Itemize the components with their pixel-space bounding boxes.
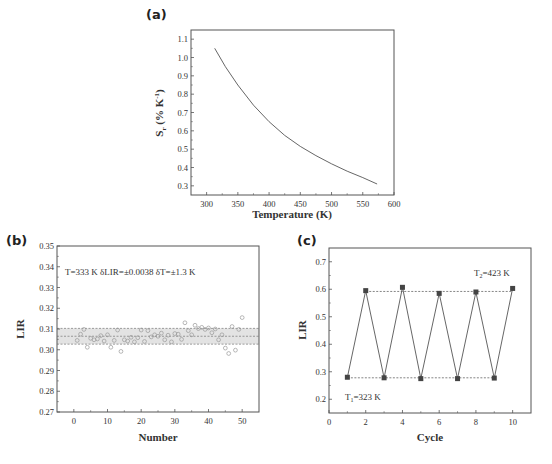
plot-c-xlabel: Cycle	[417, 431, 443, 443]
x-tick-label: 6	[437, 417, 441, 427]
data-point	[230, 325, 234, 329]
plot-a-xlabel: Temperature (K)	[252, 208, 332, 221]
panel-b-label: (b)	[6, 233, 27, 248]
panel-a: (a) 0.30.40.50.60.70.80.91.01.1 30035040…	[146, 7, 400, 221]
square-marker	[382, 375, 387, 380]
y-tick-label: 1.0	[177, 53, 188, 63]
plot-a-curve	[215, 48, 377, 184]
x-tick-label: 4	[400, 417, 405, 427]
plot-a-y-axis: 0.30.40.50.60.70.80.91.01.1	[177, 34, 194, 191]
y-tick-label: 0.32	[39, 303, 54, 313]
square-marker	[473, 290, 478, 295]
y-tick-label: 0.5	[315, 312, 326, 322]
x-tick-label: 0	[72, 416, 76, 426]
figure: (a) 0.30.40.50.60.70.80.91.01.1 30035040…	[0, 0, 552, 464]
x-tick-label: 40	[204, 416, 213, 426]
y-tick-label: 0.34	[39, 262, 55, 272]
square-marker	[400, 285, 405, 290]
data-point	[240, 316, 244, 320]
x-tick-label: 10	[103, 416, 112, 426]
y-tick-label: 0.4	[315, 339, 326, 349]
y-tick-label: 0.8	[177, 89, 188, 99]
x-tick-label: 550	[356, 199, 369, 209]
plot-c-t1-label: T1=323 K	[345, 392, 381, 403]
data-point	[223, 346, 227, 350]
panel-c: (c) 0.20.30.40.50.60.7 0246810 T2=423 K …	[296, 233, 531, 443]
square-marker	[510, 286, 515, 291]
plot-c-ylabel: LIR	[296, 319, 308, 340]
panel-a-label: (a)	[146, 7, 167, 22]
x-tick-label: 8	[474, 417, 478, 427]
square-marker	[345, 375, 350, 380]
x-tick-label: 2	[364, 417, 368, 427]
x-tick-label: 20	[137, 416, 146, 426]
panel-b: (b) 0.270.280.290.300.310.320.330.340.35…	[6, 233, 259, 443]
y-tick-label: 0.5	[177, 144, 188, 154]
plot-c-t2-label: T2=423 K	[474, 268, 510, 279]
y-tick-label: 0.3	[315, 367, 326, 377]
plot-c-markers	[345, 285, 515, 381]
data-point	[193, 323, 197, 327]
square-marker	[492, 376, 497, 381]
y-tick-label: 0.31	[39, 324, 54, 334]
plot-a-frame	[191, 30, 394, 195]
data-point	[227, 352, 231, 356]
square-marker	[363, 288, 368, 293]
y-tick-label: 0.2	[315, 394, 326, 404]
y-tick-label: 0.30	[39, 345, 54, 355]
plot-b-ylabel: LIR	[14, 318, 26, 339]
plot-a-ylabel: Sr (% K-1)	[153, 89, 168, 137]
y-tick-label: 0.28	[39, 386, 54, 396]
plot-c-cycle-line	[347, 287, 512, 378]
panel-c-label: (c)	[297, 233, 317, 248]
square-marker	[418, 376, 423, 381]
x-tick-label: 10	[508, 417, 517, 427]
x-tick-label: 300	[200, 199, 213, 209]
y-tick-label: 0.4	[177, 163, 188, 173]
data-point	[109, 345, 113, 349]
y-tick-label: 0.9	[177, 71, 188, 81]
data-point	[183, 321, 187, 325]
x-tick-label: 0	[327, 417, 331, 427]
y-tick-label: 0.27	[39, 407, 54, 417]
square-marker	[455, 376, 460, 381]
data-point	[234, 348, 238, 352]
y-tick-label: 0.29	[39, 366, 54, 376]
plot-b-annotation: T=333 K δLIR=±0.0038 δT=±1.3 K	[65, 267, 196, 277]
x-tick-label: 50	[238, 416, 247, 426]
x-tick-label: 350	[231, 199, 244, 209]
y-tick-label: 0.6	[315, 284, 326, 294]
y-tick-label: 0.7	[177, 108, 188, 118]
x-tick-label: 600	[388, 199, 401, 209]
data-point	[119, 350, 123, 354]
plot-c-y-axis: 0.20.30.40.50.60.7	[315, 257, 332, 405]
data-point	[85, 345, 89, 349]
plot-b-xlabel: Number	[138, 431, 177, 443]
y-tick-label: 1.1	[177, 34, 188, 44]
square-marker	[437, 291, 442, 296]
y-tick-label: 0.7	[315, 257, 326, 267]
y-tick-label: 0.33	[39, 283, 54, 293]
y-tick-label: 0.35	[39, 241, 54, 251]
x-tick-label: 30	[171, 416, 180, 426]
y-tick-label: 0.6	[177, 126, 188, 136]
y-tick-label: 0.3	[177, 181, 188, 191]
